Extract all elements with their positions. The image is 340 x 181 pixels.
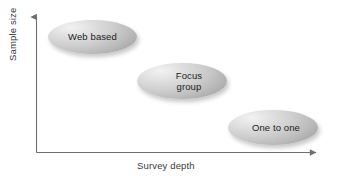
bubble-focus-group: Focus group <box>137 63 227 99</box>
bubble-web-based: Web based <box>48 20 137 54</box>
bubble-label-one-to-one: One to one <box>252 122 300 134</box>
y-axis-label-text: Sample size <box>8 50 18 61</box>
bubble-one-to-one: One to one <box>228 110 318 145</box>
bubble-label-focus-group: Focus group <box>176 70 202 93</box>
y-axis-label: Sample size <box>8 50 18 61</box>
concept-diagram: Sample size Survey depth Web based Focus… <box>0 0 340 181</box>
bubble-label-web-based: Web based <box>68 31 117 43</box>
x-axis-label-text: Survey depth <box>137 160 195 171</box>
x-axis-label: Survey depth <box>137 161 195 171</box>
